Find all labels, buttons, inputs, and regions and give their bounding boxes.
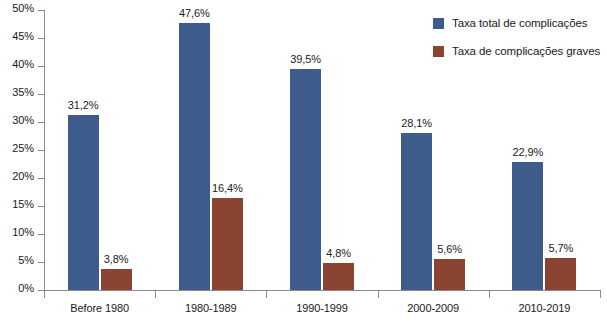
bar-chart: 0%5%10%15%20%25%30%35%40%45%50% Before 1… — [0, 0, 607, 325]
bar-value-label: 3,8% — [91, 253, 142, 265]
bar-value-label: 47,6% — [169, 7, 220, 19]
y-axis-tick-label: 10% — [12, 226, 34, 238]
x-axis-tick-mark — [266, 291, 267, 298]
bar-value-label: 16,4% — [202, 182, 253, 194]
bar-value-label: 28,1% — [391, 117, 442, 129]
x-axis-tick-mark — [44, 291, 45, 298]
legend-item-severe[interactable]: Taxa de complicações graves — [433, 41, 600, 61]
legend-swatch-total-icon — [433, 18, 444, 29]
legend-label-total: Taxa total de complicações — [452, 17, 587, 29]
bar-severe[interactable] — [212, 198, 243, 290]
y-axis-tick-label: 25% — [12, 142, 34, 154]
y-axis-tick-label: 40% — [12, 58, 34, 70]
bar-severe[interactable] — [434, 259, 465, 290]
chart-legend: Taxa total de complicações Taxa de compl… — [433, 13, 600, 69]
x-axis-tick-label: 1980-1989 — [155, 302, 266, 314]
y-axis-tick-label: 0% — [18, 282, 34, 294]
x-axis-tick-label: 2000-2009 — [378, 302, 489, 314]
bar-value-label: 4,8% — [313, 247, 364, 259]
legend-item-total[interactable]: Taxa total de complicações — [433, 13, 600, 33]
bar-severe[interactable] — [101, 269, 132, 290]
x-axis-tick-label: 2010-2019 — [489, 302, 600, 314]
y-axis-tick-label: 15% — [12, 198, 34, 210]
x-axis-tick-mark — [600, 291, 601, 298]
bar-total[interactable] — [179, 23, 210, 290]
legend-swatch-severe-icon — [433, 46, 444, 57]
y-axis-tick-label: 35% — [12, 86, 34, 98]
bar-total[interactable] — [401, 133, 432, 290]
y-axis-tick-label: 30% — [12, 114, 34, 126]
bar-value-label: 5,6% — [424, 243, 475, 255]
y-axis-tick-label: 20% — [12, 170, 34, 182]
bar-value-label: 39,5% — [280, 53, 331, 65]
bar-severe[interactable] — [323, 263, 354, 290]
legend-label-severe: Taxa de complicações graves — [452, 45, 600, 57]
bar-severe[interactable] — [545, 258, 576, 290]
x-axis-tick-label: Before 1980 — [44, 302, 155, 314]
y-axis-tick-label: 50% — [12, 2, 34, 14]
x-axis-tick-label: 1990-1999 — [266, 302, 377, 314]
bar-value-label: 31,2% — [58, 99, 109, 111]
x-axis-line — [44, 290, 601, 291]
x-axis-tick-mark — [378, 291, 379, 298]
x-axis-tick-mark — [489, 291, 490, 298]
y-axis-tick-label: 45% — [12, 30, 34, 42]
bar-value-label: 5,7% — [535, 242, 586, 254]
y-axis-tick-label: 5% — [18, 254, 34, 266]
bar-total[interactable] — [512, 162, 543, 290]
bar-value-label: 22,9% — [502, 146, 553, 158]
x-axis-tick-mark — [155, 291, 156, 298]
